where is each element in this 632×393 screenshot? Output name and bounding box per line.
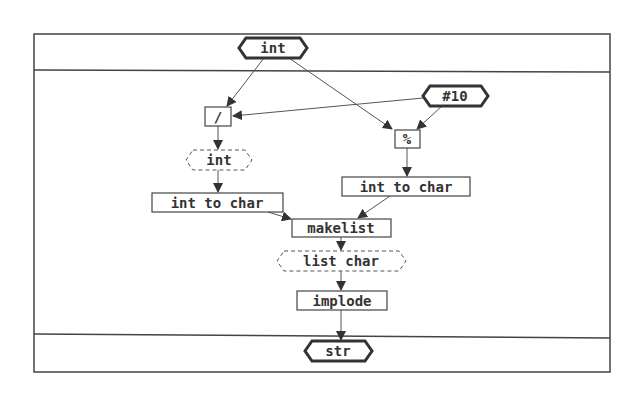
makelist-node[interactable]: makelist: [292, 219, 391, 237]
output-divider: [34, 334, 610, 338]
edge-convert-left-to-makelist: [268, 212, 291, 219]
diagram-frame: [34, 34, 610, 372]
output-node-str[interactable]: str: [305, 341, 372, 361]
modulo-node[interactable]: %: [395, 130, 420, 148]
input-divider: [34, 70, 610, 72]
svg-text:int to char: int to char: [360, 179, 453, 195]
int-to-char-right-node[interactable]: int to char: [342, 177, 470, 196]
edge-convert-right-to-makelist: [358, 196, 390, 218]
input-node-int[interactable]: int: [239, 38, 307, 58]
svg-text:list char: list char: [303, 253, 379, 269]
implode-node[interactable]: implode: [297, 291, 387, 310]
svg-text:/: /: [214, 109, 222, 125]
svg-text:makelist: makelist: [307, 220, 374, 236]
edge-int-to-divide: [227, 58, 264, 106]
intermediate-int-node[interactable]: int: [186, 150, 252, 170]
edge-const-to-divide: [233, 98, 423, 116]
svg-text:str: str: [325, 343, 350, 359]
svg-text:implode: implode: [312, 293, 371, 309]
edge-int-to-modulo: [289, 58, 392, 129]
svg-text:int: int: [206, 152, 231, 168]
svg-text:int: int: [260, 40, 285, 56]
edge-const-to-modulo: [417, 106, 442, 129]
divide-node[interactable]: /: [205, 107, 231, 126]
svg-text:int to char: int to char: [171, 195, 264, 211]
dataflow-diagram: int #10 / % int int to char int to char …: [0, 0, 632, 393]
list-char-node[interactable]: list char: [277, 251, 406, 271]
constant-node-10[interactable]: #10: [423, 86, 488, 106]
svg-text:%: %: [403, 131, 412, 147]
svg-text:#10: #10: [442, 88, 467, 104]
int-to-char-left-node[interactable]: int to char: [152, 193, 283, 212]
